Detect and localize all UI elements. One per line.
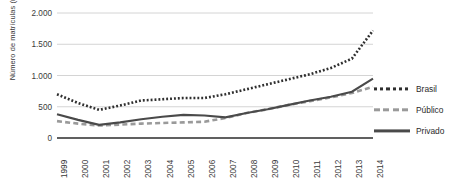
y-axis-ticks: 05001.0001.5002.000 [18, 0, 52, 183]
legend-item-brasil[interactable]: Brasil [374, 78, 460, 99]
legend-item-publico[interactable]: Público [374, 99, 460, 120]
x-tick-label: 2002 [123, 160, 132, 178]
y-tick-label: 0 [47, 134, 52, 143]
y-tick-label: 1.500 [32, 40, 53, 49]
legend-marker-solid-icon [374, 126, 410, 136]
x-tick-label: 2013 [355, 160, 364, 178]
series-line-público [57, 87, 373, 126]
x-tick-label: 2009 [271, 160, 280, 178]
x-tick-label: 2011 [313, 160, 322, 178]
y-axis-title: Número de matrículas (mil) [8, 0, 17, 95]
x-tick-label: 2000 [81, 160, 90, 178]
x-tick-label: 2007 [229, 160, 238, 178]
legend-marker-dotted-icon [374, 84, 410, 94]
x-tick-label: 2004 [166, 160, 175, 178]
series-line-privado [57, 79, 373, 125]
x-tick-label: 2012 [334, 160, 343, 178]
x-tick-label: 2005 [187, 160, 196, 178]
legend-label-privado: Privado [410, 126, 444, 136]
y-tick-label: 2.000 [32, 9, 53, 18]
legend-label-brasil: Brasil [410, 84, 437, 94]
y-tick-label: 1.000 [32, 71, 53, 80]
legend-item-privado[interactable]: Privado [374, 120, 460, 141]
x-tick-label: 2014 [376, 160, 385, 178]
x-tick-label: 2001 [102, 160, 111, 178]
x-tick-label: 2006 [208, 160, 217, 178]
x-tick-label: 2003 [144, 160, 153, 178]
x-tick-label: 1999 [60, 160, 69, 178]
chart-container: Número de matrículas (mil) 05001.0001.50… [0, 0, 461, 183]
x-tick-label: 2008 [250, 160, 259, 178]
chart-legend: Brasil Público Privado [374, 78, 460, 141]
x-tick-label: 2010 [292, 160, 301, 178]
legend-marker-dashed-icon [374, 105, 410, 115]
legend-label-publico: Público [410, 105, 443, 115]
y-tick-label: 500 [38, 102, 52, 111]
